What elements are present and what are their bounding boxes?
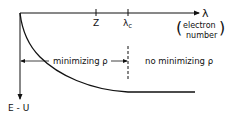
caption-close-paren: ) [219, 18, 225, 37]
tick-label-subscript-c: c [128, 22, 132, 30]
diagram-canvas: λ Z λc ( electron number ) E - U minimiz… [0, 0, 237, 118]
tick-label-lambda-c: λc [123, 18, 132, 30]
tick-label-z: Z [93, 18, 99, 28]
caption-line1: electron [183, 21, 216, 30]
y-axis-label: E - U [8, 103, 29, 113]
x-axis-label: λ [202, 7, 209, 20]
energy-curve [20, 13, 195, 92]
region-label-minimizing: minimizing ρ [53, 56, 108, 66]
caption-line2: number [186, 31, 218, 40]
caption-open-paren: ( [176, 18, 182, 37]
region-label-no-minimizing: no minimizing ρ [145, 56, 213, 66]
